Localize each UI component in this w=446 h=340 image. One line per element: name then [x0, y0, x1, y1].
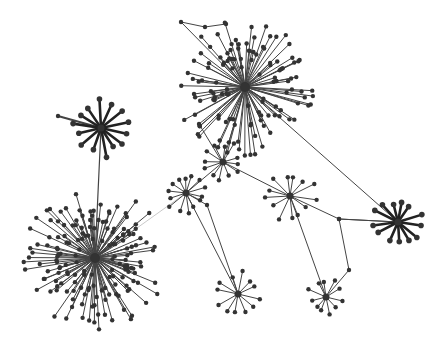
leaf-node [179, 84, 183, 88]
leaf-node [233, 123, 237, 127]
leaf-node [257, 72, 261, 76]
leaf-node [77, 208, 81, 212]
leaf-node [203, 159, 207, 163]
leaf-node [296, 101, 300, 105]
leaf-node [205, 149, 209, 153]
leaf-node [295, 213, 299, 217]
leaf-node [47, 235, 51, 239]
leaf-node [98, 202, 102, 206]
leaf-node [111, 230, 115, 234]
leaf-node [134, 222, 138, 226]
leaf-node [244, 41, 248, 45]
leaf-node [218, 55, 222, 59]
leaf-node [294, 75, 298, 79]
leaf-node [418, 223, 424, 229]
leaf-node [54, 288, 58, 292]
leaf-node [260, 100, 264, 104]
leaf-node [35, 242, 39, 246]
leaf-node [125, 253, 129, 257]
leaf-node [125, 215, 129, 219]
leaf-node [124, 283, 128, 287]
graph-node [337, 217, 341, 221]
leaf-node [291, 175, 295, 179]
leaf-node [104, 219, 108, 223]
hub-node [183, 190, 190, 197]
leaf-node [56, 271, 60, 275]
leaf-node [110, 144, 116, 150]
leaf-node [59, 281, 63, 285]
leaf-node [217, 178, 221, 182]
leaf-node [287, 117, 291, 121]
leaf-node [76, 131, 82, 137]
leaf-node [297, 58, 301, 62]
leaf-node [64, 316, 68, 320]
leaf-node [234, 38, 238, 42]
graph-edge [290, 196, 326, 297]
leaf-node [27, 255, 31, 259]
leaf-node [233, 310, 237, 314]
leaf-node [236, 162, 240, 166]
leaf-node [236, 139, 240, 143]
leaf-node [55, 247, 59, 251]
leaf-node [322, 280, 326, 284]
leaf-node [198, 124, 202, 128]
leaf-node [223, 20, 227, 24]
leaf-node [168, 196, 172, 200]
leaf-node [167, 205, 171, 209]
leaf-node [74, 223, 78, 227]
leaf-node [109, 102, 115, 108]
leaf-node [151, 248, 155, 252]
leaf-node [259, 118, 263, 122]
leaf-node [103, 313, 107, 317]
leaf-node [136, 281, 140, 285]
graph-edge [95, 128, 101, 258]
leaf-node [131, 279, 135, 283]
hub-node [287, 193, 294, 200]
leaf-node [232, 57, 236, 61]
leaf-node [90, 304, 94, 308]
leaf-node [64, 263, 68, 267]
leaf-node [76, 238, 80, 242]
leaf-node [115, 204, 119, 208]
leaf-node [144, 301, 148, 305]
leaf-node [240, 269, 244, 273]
leaf-node [311, 94, 315, 98]
spoke-edge [290, 184, 314, 196]
leaf-node [115, 236, 119, 240]
leaf-node [191, 205, 195, 209]
leaf-node [122, 308, 126, 312]
leaf-node [110, 257, 114, 261]
leaf-node [178, 209, 182, 213]
leaf-node [65, 270, 69, 274]
hub-node [98, 125, 105, 132]
leaf-node [177, 177, 181, 181]
leaf-node [126, 119, 132, 125]
leaf-node [290, 55, 294, 59]
leaf-node [277, 114, 281, 118]
leaf-node [192, 58, 196, 62]
leaf-node [80, 214, 84, 218]
leaf-node [275, 59, 279, 63]
leaf-node [419, 212, 425, 218]
hub-node [90, 253, 100, 263]
leaf-node [259, 113, 263, 117]
leaf-node [52, 314, 56, 318]
leaf-node [77, 247, 81, 251]
leaf-node [333, 278, 337, 282]
leaf-node [274, 104, 278, 108]
leaf-node [75, 260, 79, 264]
leaf-node [22, 260, 26, 264]
leaf-node [73, 253, 77, 257]
leaf-node [62, 234, 66, 238]
leaf-node [266, 113, 270, 117]
leaf-node [228, 117, 232, 121]
leaf-node [212, 143, 216, 147]
leaf-node [327, 312, 331, 316]
leaf-node [126, 289, 130, 293]
leaf-node [120, 275, 124, 279]
leaf-node [396, 239, 402, 245]
leaf-node [211, 97, 215, 101]
hub-spokes [24, 23, 422, 330]
leaf-node [228, 48, 232, 52]
leaf-node [333, 305, 337, 309]
